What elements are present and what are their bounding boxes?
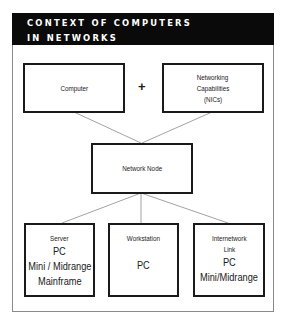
server-item-mainframe: Mainframe: [38, 274, 82, 289]
server-item-pc: PC: [53, 244, 66, 259]
networking-capabilities-box: Networking Capabilities (NICs): [162, 63, 264, 113]
network-node-box: Network Node: [91, 143, 193, 194]
server-box: Server PC Mini / Midrange Mainframe: [24, 223, 95, 297]
networking-label-line-1: Networking: [197, 72, 229, 83]
networking-label-line-3: (NICs): [204, 94, 222, 105]
internetwork-item-pc: PC: [223, 255, 236, 270]
computer-label: Computer: [60, 83, 88, 94]
networking-label-line-2: Capabilities: [197, 83, 230, 94]
network-node-label: Network Node: [122, 163, 162, 174]
internetwork-heading-line-2: Link: [223, 244, 235, 255]
internetwork-heading-line-1: Internetwork: [212, 233, 247, 244]
plus-operator: +: [138, 80, 146, 94]
diagram-title: CONTEXT OF COMPUTERS IN NETWORKS: [12, 13, 274, 45]
server-item-mini-midrange: Mini / Midrange: [28, 259, 91, 274]
server-heading: Server: [50, 233, 69, 244]
computer-box: Computer: [23, 63, 125, 113]
internetwork-link-box: Internetwork Link PC Mini/Midrange: [193, 223, 265, 297]
workstation-heading: Workstation: [127, 233, 160, 244]
title-line-1: CONTEXT OF COMPUTERS: [27, 16, 274, 31]
workstation-item-pc: PC: [137, 258, 150, 273]
title-line-2: IN NETWORKS: [27, 31, 274, 46]
workstation-box: Workstation PC: [108, 223, 179, 297]
internetwork-item-mini-midrange: Mini/Midrange: [200, 270, 258, 285]
